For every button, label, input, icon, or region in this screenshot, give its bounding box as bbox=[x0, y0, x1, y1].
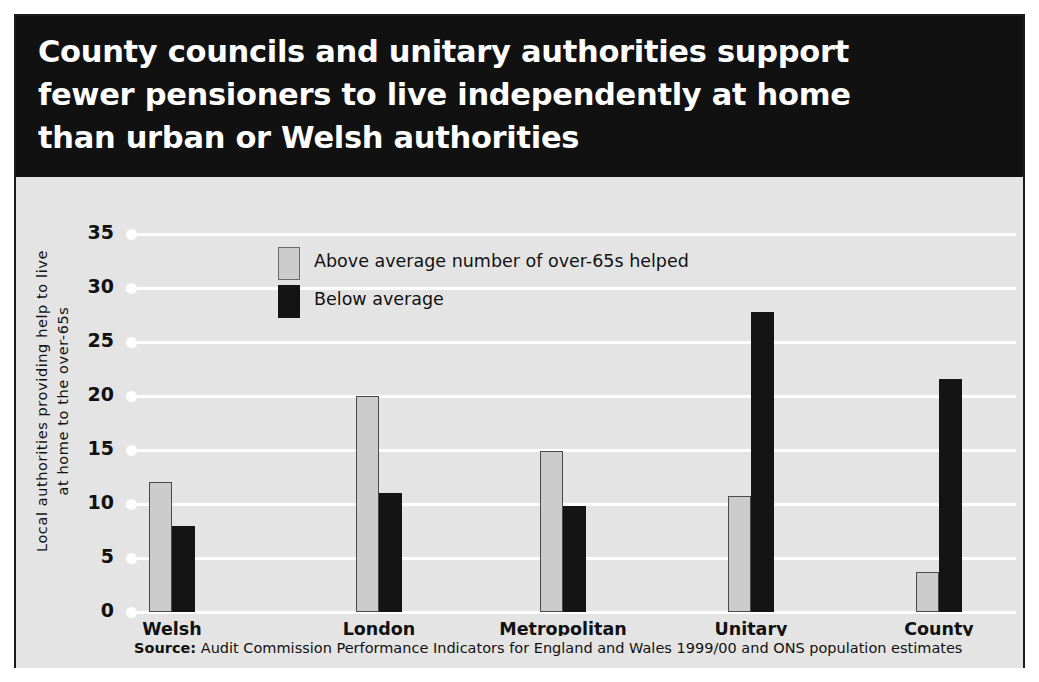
y-axis-tick-marker bbox=[126, 283, 137, 294]
y-axis-tick-label: 30 bbox=[68, 275, 114, 297]
chart-title: County councils and unitary authorities … bbox=[38, 30, 978, 159]
bar-above-average bbox=[916, 572, 939, 612]
legend-label-below-average: Below average bbox=[314, 289, 444, 309]
legend-swatch-above-average bbox=[278, 247, 300, 280]
chart-footer: Source: Audit Commission Performance Ind… bbox=[16, 636, 1023, 666]
gridline bbox=[134, 233, 1016, 236]
bar-above-average bbox=[356, 396, 379, 612]
y-axis-tick-label: 25 bbox=[68, 329, 114, 351]
gridline bbox=[134, 449, 1016, 452]
bar-below-average bbox=[939, 379, 962, 612]
source-label: Source: bbox=[134, 640, 196, 656]
y-axis-tick-label: 15 bbox=[68, 437, 114, 459]
y-axis-tick-marker bbox=[126, 553, 137, 564]
bar-above-average bbox=[540, 451, 563, 612]
source-note: Source: Audit Commission Performance Ind… bbox=[134, 640, 962, 656]
legend-label-above-average: Above average number of over-65s helped bbox=[314, 251, 689, 271]
y-axis-tick-marker bbox=[126, 445, 137, 456]
bar-below-average bbox=[563, 506, 586, 612]
y-axis-tick-marker bbox=[126, 391, 137, 402]
bar-below-average bbox=[751, 312, 774, 612]
bar-above-average bbox=[149, 482, 172, 612]
y-axis-tick-marker bbox=[126, 607, 137, 618]
chart-header-band: County councils and unitary authorities … bbox=[16, 16, 1023, 177]
y-axis-tick-label: 10 bbox=[68, 491, 114, 513]
y-axis-tick-marker bbox=[126, 337, 137, 348]
gridline bbox=[134, 287, 1016, 290]
y-axis-tick-label: 0 bbox=[68, 599, 114, 621]
bar-above-average bbox=[728, 496, 751, 612]
plot-area bbox=[134, 220, 1016, 615]
chart-plot-panel: Local authorities providing help to live… bbox=[16, 177, 1023, 668]
legend-swatch-below-average bbox=[278, 285, 300, 318]
bar-below-average bbox=[379, 493, 402, 612]
source-text: Audit Commission Performance Indicators … bbox=[196, 640, 962, 656]
y-axis-tick-label: 35 bbox=[68, 221, 114, 243]
gridline bbox=[134, 341, 1016, 344]
y-axis-tick-label: 5 bbox=[68, 545, 114, 567]
bar-below-average bbox=[172, 526, 195, 612]
gridline bbox=[134, 395, 1016, 398]
y-axis-tick-marker bbox=[126, 229, 137, 240]
y-axis-tick-label: 20 bbox=[68, 383, 114, 405]
y-axis-tick-marker bbox=[126, 499, 137, 510]
gridline bbox=[134, 503, 1016, 506]
chart-figure: County councils and unitary authorities … bbox=[14, 14, 1025, 668]
